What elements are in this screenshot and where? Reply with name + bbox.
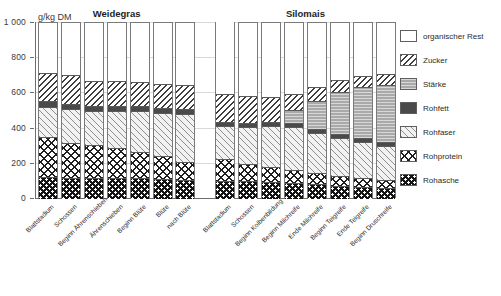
bar-segment-staerke [354, 87, 372, 138]
legend-swatch-rohfaser [400, 126, 417, 138]
bar-segment-rest [377, 23, 395, 74]
legend-item[interactable]: Zucker [400, 48, 500, 72]
bar-segment-rohfett [108, 106, 126, 111]
bar-segment-rest [308, 23, 326, 87]
bar-segment-rohfaser [308, 133, 326, 173]
bar-segment-rohprotein [262, 167, 280, 182]
bar-segment-zucker [131, 82, 149, 107]
legend-swatch-rest [400, 30, 417, 42]
bar-segment-zucker [262, 97, 280, 123]
y-axis-tick-label: 0 [0, 193, 26, 203]
bar-stack [353, 22, 373, 198]
y-axis-unit-label: g/kg DM [38, 12, 72, 22]
bar-segment-rohprotein [108, 148, 126, 178]
bar-stack [238, 22, 258, 198]
x-axis-label: Beginn Blüte [102, 203, 147, 248]
bar-segment-zucker [331, 80, 349, 92]
legend-item[interactable]: Rohfaser [400, 120, 500, 144]
bar-segment-rohfaser [176, 114, 194, 162]
bar-segment-rohprotein [154, 156, 172, 179]
bar-segment-staerke [285, 110, 303, 123]
bar-segment-rest [85, 23, 103, 81]
bar-segment-rohfett [239, 123, 257, 127]
bar-segment-rohprotein [216, 159, 234, 180]
bar-segment-rohfett [354, 138, 372, 142]
bar-segment-rohasche [239, 181, 257, 199]
x-axis-label: Beginn Milchreife [256, 203, 301, 248]
bar-segment-rohasche [39, 177, 57, 199]
bar-segment-zucker [176, 85, 194, 109]
y-axis-tick-mark [30, 163, 34, 164]
bar-segment-rest [239, 23, 257, 96]
bar-segment-rohprotein [354, 178, 372, 186]
legend-item[interactable]: organischer Rest [400, 24, 500, 48]
bar-segment-rohasche [285, 183, 303, 199]
legend-item[interactable]: Rohprotein [400, 144, 500, 168]
x-axis-label: Beginn Teigreife [302, 203, 347, 248]
bar-segment-rohfaser [108, 111, 126, 148]
y-axis-tick-mark [30, 198, 34, 199]
bar-segment-rest [154, 23, 172, 84]
bar-segment-rohasche [176, 180, 194, 199]
bar-stack [130, 22, 150, 198]
bar-segment-rohprotein [85, 145, 103, 178]
bar-stack [330, 22, 350, 198]
bar-segment-rest [331, 23, 349, 80]
y-axis-line [35, 22, 36, 199]
bar-stack [175, 22, 195, 198]
bar-segment-rohfaser [62, 109, 80, 142]
bar-stack [107, 22, 127, 198]
bar-segment-rohasche [262, 182, 280, 199]
legend-label: Zucker [423, 56, 447, 65]
bar-stack [376, 22, 396, 198]
bar-segment-rohasche [62, 178, 80, 199]
x-axis-label: Ährenschieben [79, 203, 124, 248]
bar-segment-staerke [377, 85, 395, 142]
x-axis-label: nach Blüte [148, 203, 193, 248]
bar-segment-rohfaser [239, 127, 257, 164]
bar-segment-rohfett [331, 134, 349, 138]
bar-segment-rohfaser [331, 138, 349, 176]
bar-segment-rest [262, 23, 280, 97]
y-axis-tick-label: 600 [0, 87, 26, 97]
legend-item[interactable]: Rohfett [400, 96, 500, 120]
group-title-silomais: Silomais [277, 8, 333, 19]
bar-segment-rest [62, 23, 80, 75]
bar-segment-zucker [62, 75, 80, 104]
bar-segment-rohprotein [62, 143, 80, 178]
bar-segment-rohprotein [131, 152, 149, 178]
bar-segment-rohfaser [262, 126, 280, 167]
bar-segment-zucker [239, 96, 257, 123]
bar-segment-staerke [308, 101, 326, 129]
x-axis-label: Schossen [211, 203, 256, 248]
legend-swatch-staerke [400, 78, 417, 90]
bar-segment-zucker [285, 94, 303, 110]
bar-segment-rest [285, 23, 303, 94]
bar-stack [38, 22, 58, 198]
legend-label: Rohfett [423, 104, 449, 113]
x-axis-label: Beginn Ährenschieben [56, 203, 101, 248]
bar-segment-rohfett [377, 142, 395, 146]
bar-segment-rohasche [377, 188, 395, 199]
x-axis-label: Ende Milchreife [279, 203, 324, 248]
bar-segment-rohasche [85, 178, 103, 199]
bar-stack [284, 22, 304, 198]
legend: organischer RestZuckerStärkeRohfettRohfa… [400, 24, 500, 192]
legend-item[interactable]: Stärke [400, 72, 500, 96]
group-title-weidegras: Weidegras [89, 8, 145, 19]
legend-label: Rohprotein [423, 152, 462, 161]
bar-segment-rohfett [216, 122, 234, 126]
y-axis-tick-mark [30, 128, 34, 129]
legend-item[interactable]: Rohasche [400, 168, 500, 192]
y-axis-tick-mark [30, 92, 34, 93]
x-axis-label: Ende Teigreife [325, 203, 370, 248]
y-axis-tick-mark [30, 22, 34, 23]
bar-segment-rohfett [39, 101, 57, 106]
bar-segment-zucker [85, 81, 103, 106]
bar-segment-zucker [216, 94, 234, 122]
bar-segment-rohasche [131, 178, 149, 199]
x-axis-label: Beginn Druschreife [348, 203, 393, 248]
bar-segment-rohprotein [39, 137, 57, 177]
legend-label: Stärke [423, 80, 446, 89]
y-axis-tick-label: 200 [0, 158, 26, 168]
